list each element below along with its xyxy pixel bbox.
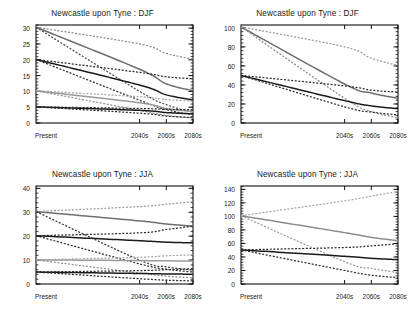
series-line [241,216,398,273]
chart-panel-top-left: Newcastle upon Tyne : DJF 051015202530Pr… [0,0,205,161]
plot-area: 010203040Present2040s2060s2080s [0,161,205,322]
plot-svg [0,0,205,161]
series-line [241,27,398,66]
series-line [241,250,398,260]
plot-svg [205,0,410,161]
series-line [241,244,398,250]
chart-panel-top-right: Newcastle upon Tyne : DJF 020406080100Pr… [205,0,410,161]
chart-panel-bottom-left: Newcastle upon Tyne : JJA 010203040Prese… [0,161,205,322]
plot-area: 051015202530Present2040s2060s2080s [0,0,205,161]
plot-svg [205,161,410,322]
chart-panel-bottom-right: Newcastle upon Tyne : JJA 02040608010012… [205,161,410,322]
series-line [36,226,193,236]
series-line [36,91,193,112]
series-line [36,91,193,118]
series-line [36,255,193,260]
plot-svg [0,161,205,322]
series-line [36,27,193,59]
series-line [36,236,193,243]
series-line [36,27,193,91]
figure-canvas: Newcastle upon Tyne : DJF 051015202530Pr… [0,0,410,322]
series-line [241,75,398,108]
series-line [241,191,398,215]
plot-area: 020406080100Present2040s2060s2080s [205,0,410,161]
series-line [241,27,398,98]
series-line [36,260,193,278]
series-line [36,236,193,272]
series-line [36,269,193,272]
plot-area: 020406080100120140Present2040s2060s2080s [205,161,410,322]
series-line [36,212,193,227]
series-line [36,202,193,212]
series-line [241,216,398,241]
series-line [36,260,193,261]
series-line [36,59,193,114]
series-line [241,75,398,92]
